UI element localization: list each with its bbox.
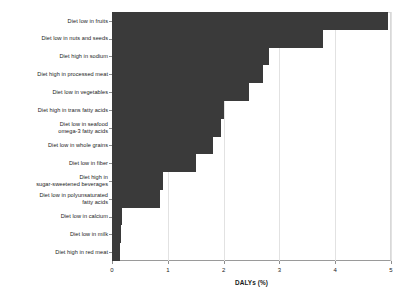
category-label: Diet low in fiber bbox=[0, 160, 108, 167]
bar-row bbox=[112, 101, 391, 119]
bar bbox=[112, 101, 224, 119]
bar bbox=[112, 65, 263, 83]
bar bbox=[112, 83, 249, 101]
bar bbox=[112, 172, 163, 190]
gridline bbox=[391, 12, 392, 261]
x-axis-tick-label: 2 bbox=[214, 267, 234, 273]
bar bbox=[112, 30, 323, 48]
bar bbox=[112, 48, 269, 66]
x-axis-title: DALYs (%) bbox=[112, 279, 391, 286]
bar-row bbox=[112, 65, 391, 83]
x-axis-tick-label: 0 bbox=[102, 267, 122, 273]
bar bbox=[112, 12, 388, 30]
x-axis-tick bbox=[112, 261, 113, 264]
bar-row bbox=[112, 154, 391, 172]
bar-row bbox=[112, 48, 391, 66]
bar-row bbox=[112, 30, 391, 48]
category-label: Diet low in seafood omega-3 fatty acids bbox=[0, 121, 108, 134]
category-label: Diet high in processed meat bbox=[0, 71, 108, 78]
bar bbox=[112, 190, 160, 208]
bar-row bbox=[112, 208, 391, 226]
bar-row bbox=[112, 190, 391, 208]
bar-row bbox=[112, 136, 391, 154]
bar-row bbox=[112, 172, 391, 190]
bar bbox=[112, 243, 120, 261]
category-label: Diet low in nuts and seeds bbox=[0, 35, 108, 42]
category-label: Diet low in polyunsaturated fatty acids bbox=[0, 192, 108, 205]
category-label: Diet low in whole grains bbox=[0, 142, 108, 149]
category-label: Diet low in fruits bbox=[0, 18, 108, 25]
x-axis-tick bbox=[224, 261, 225, 264]
bar bbox=[112, 225, 121, 243]
x-axis-tick bbox=[279, 261, 280, 264]
x-axis-tick-label: 1 bbox=[158, 267, 178, 273]
bar bbox=[112, 154, 196, 172]
category-label: Diet high in trans fatty acids bbox=[0, 107, 108, 114]
bar-row bbox=[112, 243, 391, 261]
bar bbox=[112, 208, 122, 226]
category-label: Diet low in vegetables bbox=[0, 89, 108, 96]
bar-series bbox=[112, 12, 391, 261]
bar bbox=[112, 136, 213, 154]
category-label: Diet high in sugar-sweetened beverages bbox=[0, 174, 108, 187]
x-axis-tick bbox=[391, 261, 392, 264]
category-label: Diet high in sodium bbox=[0, 53, 108, 60]
x-axis-tick bbox=[168, 261, 169, 264]
bar-row bbox=[112, 119, 391, 137]
bar-row bbox=[112, 83, 391, 101]
x-axis-tick bbox=[335, 261, 336, 264]
category-label: Diet low in calcium bbox=[0, 213, 108, 220]
bar-row bbox=[112, 225, 391, 243]
bar bbox=[112, 119, 221, 137]
x-axis-tick-label: 5 bbox=[381, 267, 401, 273]
category-label: Diet low in milk bbox=[0, 231, 108, 238]
x-axis-tick-label: 4 bbox=[325, 267, 345, 273]
bar-row bbox=[112, 12, 391, 30]
x-axis-tick-label: 3 bbox=[269, 267, 289, 273]
chart-figure: Diet low in fruitsDiet low in nuts and s… bbox=[0, 0, 414, 301]
category-label: Diet high in red meat bbox=[0, 249, 108, 256]
category-axis-labels: Diet low in fruitsDiet low in nuts and s… bbox=[0, 12, 108, 261]
